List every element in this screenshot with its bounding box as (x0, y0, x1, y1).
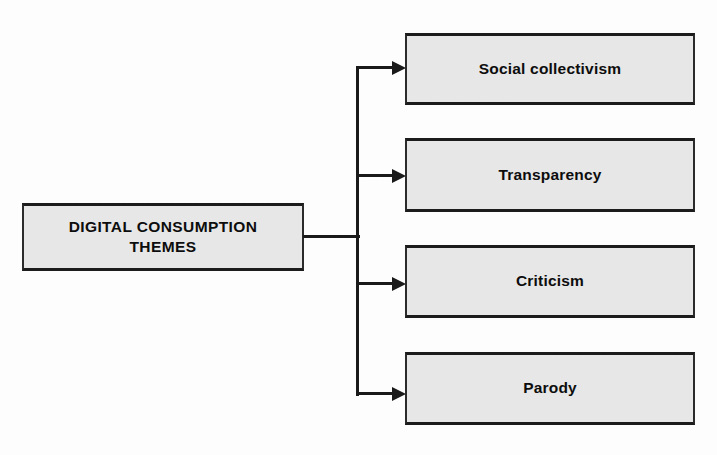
root-node-digital-consumption-themes[interactable]: DIGITAL CONSUMPTION THEMES (22, 203, 304, 271)
connector-root-stem (303, 235, 360, 238)
leaf-node-label-1: Social collectivism (407, 59, 693, 79)
leaf-node-transparency[interactable]: Transparency (405, 138, 695, 212)
leaf-node-social-collectivism[interactable]: Social collectivism (405, 33, 695, 105)
diagram-canvas: DIGITAL CONSUMPTION THEMES Social collec… (0, 0, 717, 455)
arrowhead-icon-3 (392, 277, 406, 291)
leaf-node-parody[interactable]: Parody (405, 352, 695, 425)
leaf-node-label-2: Transparency (407, 165, 693, 185)
connector-vertical-trunk (356, 66, 359, 396)
arrowhead-icon-1 (392, 61, 406, 75)
leaf-node-label-3: Criticism (407, 271, 693, 291)
arrowhead-icon-2 (392, 169, 406, 183)
arrowhead-icon-4 (392, 387, 406, 401)
leaf-node-label-4: Parody (407, 378, 693, 398)
leaf-node-criticism[interactable]: Criticism (405, 245, 695, 318)
root-node-label: DIGITAL CONSUMPTION THEMES (24, 217, 302, 258)
